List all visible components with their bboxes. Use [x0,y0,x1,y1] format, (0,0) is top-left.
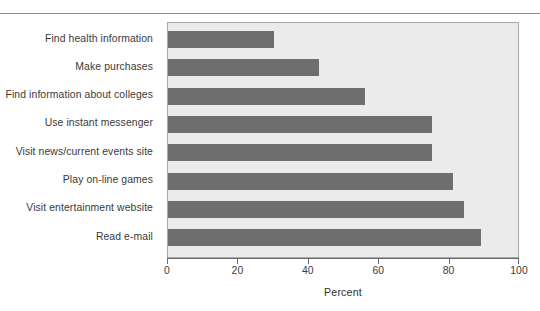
x-tick-label: 40 [302,265,314,276]
x-tick-mark [167,258,168,264]
category-label: Play on-line games [0,174,153,186]
bar [168,144,432,161]
bar [168,173,453,190]
category-label: Visit entertainment website [0,202,153,214]
x-axis-title: Percent [167,286,519,298]
bar [168,88,365,105]
category-label: Use instant messenger [0,117,153,129]
category-label: Find health information [0,33,153,45]
x-tick-mark [449,258,450,264]
x-tick-label: 100 [510,265,527,276]
category-label: Visit news/current events site [0,146,153,158]
bar [168,59,319,76]
x-tick-mark [378,258,379,264]
bar [168,201,464,218]
bar [168,229,481,246]
x-tick-label: 0 [164,265,170,276]
x-tick-label: 60 [372,265,384,276]
bar [168,31,274,48]
value-axis-line [167,258,519,259]
category-label: Read e-mail [0,231,153,243]
bar [168,116,432,133]
x-tick-mark [518,258,519,264]
x-tick-mark [308,258,309,264]
x-tick-mark [237,258,238,264]
category-axis: Find health informationMake purchasesFin… [0,22,160,258]
category-label: Make purchases [0,61,153,73]
plot-area [167,22,519,258]
top-divider-rule [0,13,540,14]
bar-chart-figure: Find health informationMake purchasesFin… [0,0,540,311]
x-tick-label: 80 [443,265,455,276]
x-tick-label: 20 [232,265,244,276]
category-label: Find information about colleges [0,89,153,101]
